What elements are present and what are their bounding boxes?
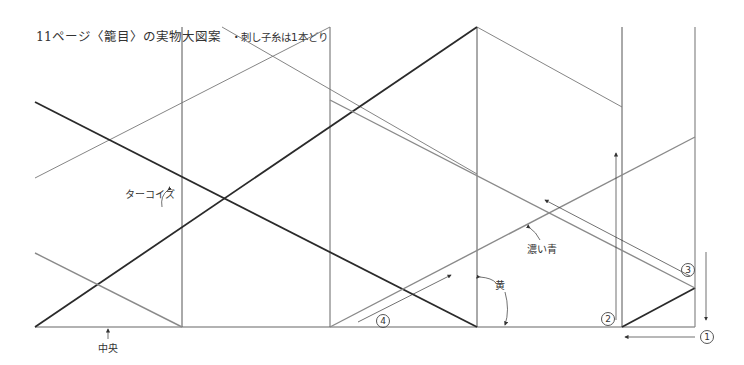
gray-diagonal <box>330 137 695 327</box>
thin-diagonal <box>477 27 622 107</box>
label-yellow: 黄 <box>495 277 505 292</box>
thin-diagonal <box>222 27 477 174</box>
dark-blue-pointer <box>530 228 540 240</box>
marker-3: 3 <box>681 263 695 277</box>
arrow-3 <box>545 200 690 276</box>
kagome-pattern-diagram <box>0 0 744 365</box>
label-dark-blue: 濃い青 <box>527 241 557 256</box>
label-center: 中央 <box>98 340 118 355</box>
label-turquoise: ターコイズ <box>125 186 175 201</box>
gray-diagonal <box>330 100 695 288</box>
marker-1: 1 <box>700 330 714 344</box>
dark-diagonal <box>35 27 477 327</box>
marker-2: 2 <box>601 312 615 326</box>
yellow-pointer-top <box>480 277 496 283</box>
yellow-pointer-bottom <box>505 292 508 325</box>
marker-4: 4 <box>376 314 390 328</box>
arrow-4 <box>358 275 451 322</box>
dark-diagonal <box>622 288 695 327</box>
gray-diagonal <box>35 253 182 327</box>
